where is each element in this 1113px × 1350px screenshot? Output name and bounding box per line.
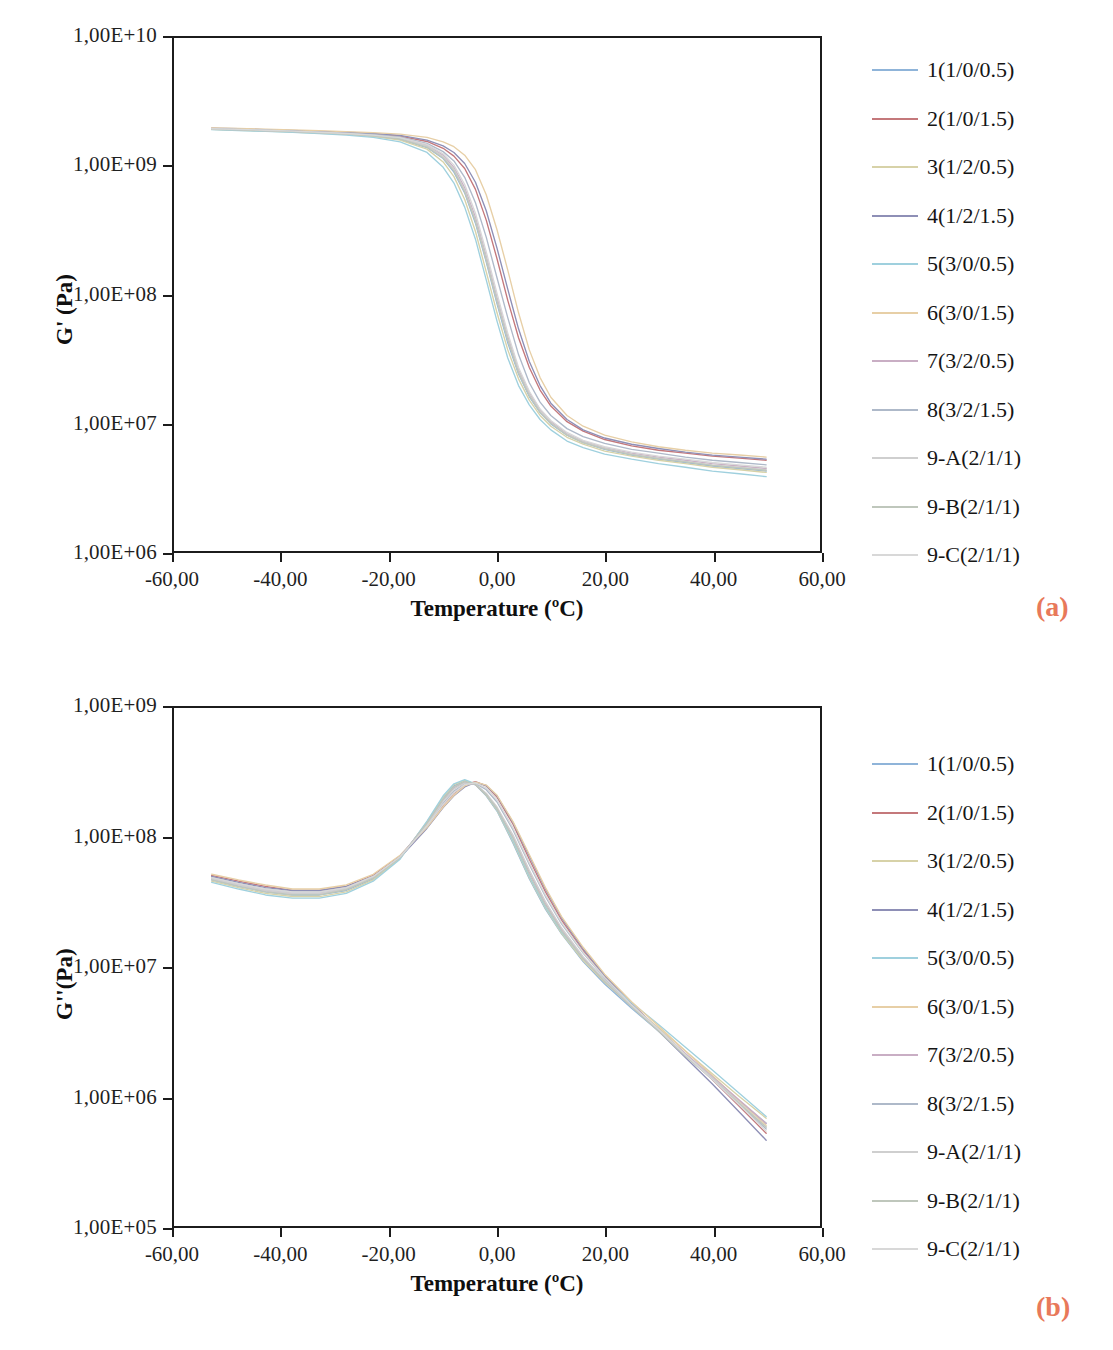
legend-label: 9-A(2/1/1): [927, 447, 1021, 469]
legend-label: 1(1/0/0.5): [927, 59, 1014, 81]
legend-label: 8(3/2/1.5): [927, 399, 1014, 421]
series-line: [212, 129, 766, 465]
x-tick-label: 60,00: [762, 569, 882, 590]
series-line: [212, 129, 766, 471]
x-tick-mark: [497, 1228, 499, 1237]
x-axis-title-a: Temperature (ºC): [312, 596, 682, 622]
y-tick-mark: [163, 295, 172, 297]
series-line: [212, 780, 766, 1118]
legend-line-swatch: [872, 909, 918, 911]
x-tick-label: -40,00: [220, 1244, 340, 1265]
legend-label: 9-B(2/1/1): [927, 1190, 1020, 1212]
plot-area-b: [172, 706, 822, 1228]
x-tick-mark: [714, 1228, 716, 1237]
legend-line-swatch: [872, 860, 918, 862]
series-line: [212, 129, 766, 472]
legend-label: 4(1/2/1.5): [927, 205, 1014, 227]
legend-line-swatch: [872, 215, 918, 217]
figure-root: 1,00E+061,00E+071,00E+081,00E+091,00E+10…: [0, 0, 1113, 1350]
series-line: [212, 129, 766, 470]
legend-line-swatch: [872, 166, 918, 168]
panel-letter-a: (a): [1036, 591, 1069, 623]
legend-label: 7(3/2/0.5): [927, 350, 1014, 372]
legend-line-swatch: [872, 69, 918, 71]
series-line: [212, 129, 766, 469]
y-axis-title-a: G' (Pa): [52, 274, 78, 345]
x-tick-mark: [280, 553, 282, 562]
series-line: [212, 783, 766, 1127]
legend-line-swatch: [872, 812, 918, 814]
y-tick-mark: [163, 837, 172, 839]
x-tick-label: -20,00: [329, 569, 449, 590]
legend-line-swatch: [872, 554, 918, 556]
legend-label: 8(3/2/1.5): [927, 1093, 1014, 1115]
legend-label: 9-B(2/1/1): [927, 496, 1020, 518]
y-axis-title-b: G''(Pa): [52, 948, 78, 1020]
y-tick-mark: [163, 967, 172, 969]
series-line: [212, 782, 766, 1127]
y-tick-label: 1,00E+05: [27, 1217, 157, 1238]
legend-line-swatch: [872, 312, 918, 314]
y-tick-mark: [163, 36, 172, 38]
chart-canvas-b: [174, 708, 820, 1226]
legend-label: 2(1/0/1.5): [927, 802, 1014, 824]
x-tick-label: 0,00: [437, 1244, 557, 1265]
series-line: [212, 782, 766, 1123]
y-tick-label: 1,00E+07: [27, 956, 157, 977]
x-tick-mark: [605, 553, 607, 562]
legend-line-swatch: [872, 118, 918, 120]
legend-line-swatch: [872, 1200, 918, 1202]
legend-line-swatch: [872, 409, 918, 411]
y-tick-label: 1,00E+09: [27, 695, 157, 716]
legend-line-swatch: [872, 1006, 918, 1008]
x-tick-label: 40,00: [654, 1244, 774, 1265]
series-line: [212, 782, 766, 1140]
y-tick-label: 1,00E+06: [27, 542, 157, 563]
legend-line-swatch: [872, 1103, 918, 1105]
series-line: [212, 781, 766, 1123]
x-tick-label: -60,00: [112, 569, 232, 590]
x-tick-mark: [172, 553, 174, 562]
y-tick-label: 1,00E+09: [27, 154, 157, 175]
x-tick-label: 40,00: [654, 569, 774, 590]
legend-line-swatch: [872, 506, 918, 508]
x-tick-mark: [605, 1228, 607, 1237]
y-tick-mark: [163, 706, 172, 708]
y-tick-label: 1,00E+08: [27, 826, 157, 847]
legend-line-swatch: [872, 457, 918, 459]
x-tick-mark: [822, 1228, 824, 1237]
legend-label: 6(3/0/1.5): [927, 996, 1014, 1018]
x-tick-mark: [497, 553, 499, 562]
series-line: [212, 128, 766, 460]
legend-line-swatch: [872, 1151, 918, 1153]
legend-line-swatch: [872, 1054, 918, 1056]
x-tick-mark: [280, 1228, 282, 1237]
y-tick-label: 1,00E+06: [27, 1087, 157, 1108]
legend-label: 1(1/0/0.5): [927, 753, 1014, 775]
series-line: [212, 780, 766, 1117]
legend-line-swatch: [872, 360, 918, 362]
x-tick-label: 0,00: [437, 569, 557, 590]
plot-area-a: [172, 36, 822, 553]
legend-line-swatch: [872, 263, 918, 265]
series-line: [212, 129, 766, 470]
series-line: [212, 782, 766, 1125]
series-line: [212, 783, 766, 1129]
series-line: [212, 129, 766, 467]
legend-label: 9-C(2/1/1): [927, 1238, 1020, 1260]
x-tick-label: 20,00: [545, 1244, 665, 1265]
x-tick-mark: [389, 553, 391, 562]
panel-a: 1,00E+061,00E+071,00E+081,00E+091,00E+10…: [0, 0, 1113, 660]
x-axis-title-b: Temperature (ºC): [312, 1271, 682, 1297]
legend-label: 6(3/0/1.5): [927, 302, 1014, 324]
series-line: [212, 130, 766, 477]
x-tick-label: 60,00: [762, 1244, 882, 1265]
chart-canvas-a: [174, 38, 820, 551]
y-tick-mark: [163, 1228, 172, 1230]
legend-label: 5(3/0/0.5): [927, 253, 1014, 275]
legend-line-swatch: [872, 957, 918, 959]
y-tick-mark: [163, 553, 172, 555]
y-tick-label: 1,00E+08: [27, 284, 157, 305]
legend-line-swatch: [872, 763, 918, 765]
series-line: [212, 128, 766, 459]
